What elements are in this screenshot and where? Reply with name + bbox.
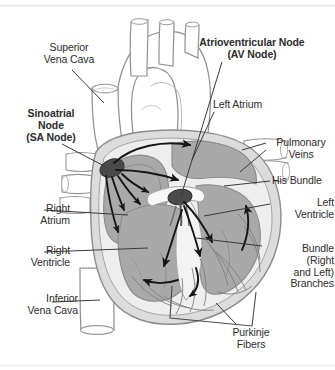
label-left-atrium: Left Atrium bbox=[213, 99, 303, 111]
label-his-bundle: His Bundle bbox=[272, 175, 334, 187]
label-inferior-vena-cava: Inferior Vena Cava bbox=[6, 293, 78, 317]
label-atrioventricular-node: Atrioventricular Node (AV Node) bbox=[172, 37, 332, 61]
label-left-ventricle: Left Ventricle bbox=[272, 197, 334, 221]
label-superior-vena-cava: Superior Vena Cava bbox=[22, 42, 116, 66]
label-right-ventricle: Right Ventricle bbox=[8, 245, 70, 269]
label-sinoatrial-node: Sinoatrial Node (SA Node) bbox=[4, 108, 98, 143]
label-purkinje-fibers: Purkinje Fibers bbox=[215, 327, 287, 351]
label-pulmonary-veins: Pulmonary Veins bbox=[268, 137, 334, 161]
label-bundle-branches: Bundle (Right and Left) Branches bbox=[265, 243, 334, 290]
label-right-atrium: Right Atrium bbox=[8, 203, 70, 227]
heart-conduction-diagram: Superior Vena Cava Sinoatrial Node (SA N… bbox=[0, 0, 335, 370]
